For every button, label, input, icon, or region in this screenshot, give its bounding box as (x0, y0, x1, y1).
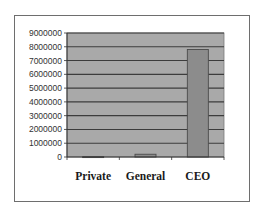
bar-ceo (187, 50, 208, 157)
y-tick-label: 9000000 (29, 28, 62, 38)
y-tick-label: 0 (57, 152, 62, 162)
y-tick-label: 2000000 (29, 124, 62, 134)
y-tick-label: 7000000 (29, 56, 62, 66)
x-tick-labels: PrivateGeneralCEO (75, 170, 210, 182)
y-tick-label: 6000000 (29, 69, 62, 79)
y-tick-label: 8000000 (29, 42, 62, 52)
y-tick-label: 1000000 (29, 138, 62, 148)
y-tick-label: 5000000 (29, 83, 62, 93)
bar-chart: 0100000020000003000000400000050000006000… (0, 0, 260, 212)
y-tick-label: 4000000 (29, 97, 62, 107)
x-tick-label: CEO (185, 170, 210, 182)
x-tick-label: General (126, 170, 166, 182)
y-tick-labels: 0100000020000003000000400000050000006000… (29, 28, 62, 162)
x-tick-label: Private (75, 170, 111, 182)
y-tick-label: 3000000 (29, 111, 62, 121)
